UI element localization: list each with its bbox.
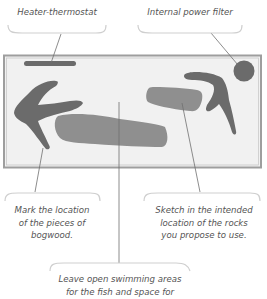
callout-curve-filter [138,25,242,33]
callout-curve-swimming [50,263,190,271]
swimming-line-1: Leave open swimming areas [50,273,190,286]
callout-swimming-label: Leave open swimming areas for the fish a… [50,273,190,298]
callout-filter-label: Internal power filter [138,6,242,19]
callout-heater-label: Heater-thermostat [8,6,106,19]
rocks-line-3: you propose to use. [146,229,262,242]
rocks-line-2: location of the rocks [146,217,262,230]
callout-rocks-label: Sketch in the intended location of the r… [146,204,262,242]
rocks-line-1: Sketch in the intended [146,204,262,217]
callout-curve-rocks [144,193,260,201]
callout-curve-bogwood [5,193,100,201]
bogwood-line-3: bogwood. [4,229,100,242]
heater-thermostat-shape [24,61,76,66]
callout-bogwood-label: Mark the location of the pieces of bogwo… [4,204,100,242]
aquarium-layout-diagram [0,0,267,299]
bogwood-line-2: of the pieces of [4,217,100,230]
callout-curve-heater [8,25,106,33]
heater-label-text: Heater-thermostat [17,7,97,17]
bogwood-line-1: Mark the location [4,204,100,217]
filter-label-text: Internal power filter [147,7,232,17]
swimming-line-2: for the fish and space for [50,286,190,299]
